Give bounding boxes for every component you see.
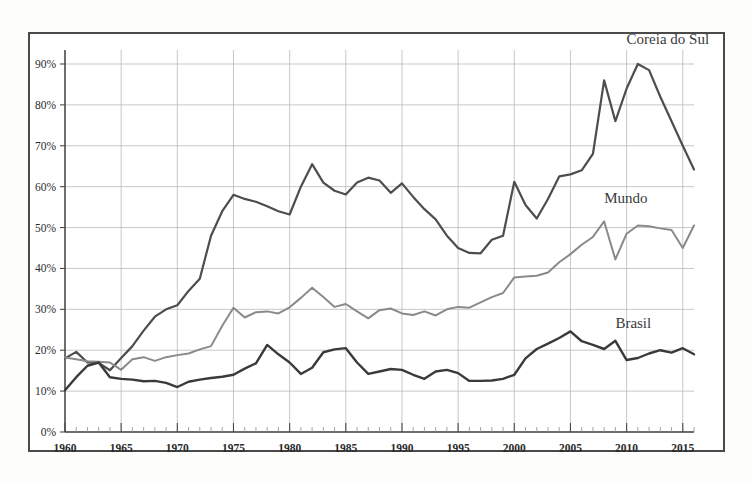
x-tick-label: 1985 [334, 442, 357, 454]
y-tick-label: 40% [35, 262, 57, 274]
x-tick-label: 2010 [615, 442, 638, 454]
x-tick-label: 1965 [110, 442, 133, 454]
y-tick-label: 10% [35, 385, 57, 397]
x-tick-label: 2000 [503, 442, 526, 454]
x-tick-label: 2005 [559, 442, 582, 454]
y-tick-label: 0% [41, 426, 57, 438]
y-tick-label: 50% [35, 222, 57, 234]
x-tick-label: 1970 [166, 442, 189, 454]
series-line-0 [65, 64, 694, 370]
y-tick-label: 60% [35, 181, 57, 193]
x-tick-label: 1975 [222, 442, 245, 454]
x-axis-tick-labels: 1960196519701975198019851990199520002005… [54, 442, 695, 454]
y-tick-label: 30% [35, 303, 57, 315]
x-tick-label: 1980 [278, 442, 301, 454]
x-tick-label: 2015 [671, 442, 694, 454]
series-label-2: Brasil [615, 315, 651, 331]
y-tick-label: 80% [35, 99, 57, 111]
series-label-0: Coreia do Sul [627, 31, 710, 47]
y-tick-label: 90% [35, 58, 57, 70]
series-line-2 [65, 331, 694, 390]
x-tick-label: 1995 [447, 442, 470, 454]
line-chart: 0%10%20%30%40%50%60%70%80%90% 1960196519… [0, 0, 751, 484]
y-tick-label: 70% [35, 140, 57, 152]
chart-page: 0%10%20%30%40%50%60%70%80%90% 1960196519… [0, 0, 751, 484]
series-label-1: Mundo [604, 190, 647, 206]
y-tick-label: 20% [35, 344, 57, 356]
series-lines [65, 64, 694, 390]
series-labels: Coreia do SulMundoBrasil [604, 31, 709, 331]
x-tick-label: 1960 [54, 442, 77, 454]
y-axis-tick-labels: 0%10%20%30%40%50%60%70%80%90% [35, 58, 57, 438]
x-tick-label: 1990 [390, 442, 413, 454]
